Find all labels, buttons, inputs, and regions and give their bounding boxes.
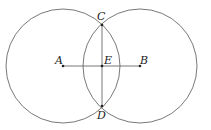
label-b: B [139, 54, 148, 67]
point-e [101, 65, 104, 68]
label-e: E [103, 54, 112, 67]
label-d: D [96, 109, 106, 122]
point-c [101, 24, 104, 27]
geometry-diagram: A B C D E [0, 0, 211, 130]
label-c: C [97, 10, 106, 23]
point-d [101, 105, 104, 108]
label-a: A [54, 54, 63, 67]
